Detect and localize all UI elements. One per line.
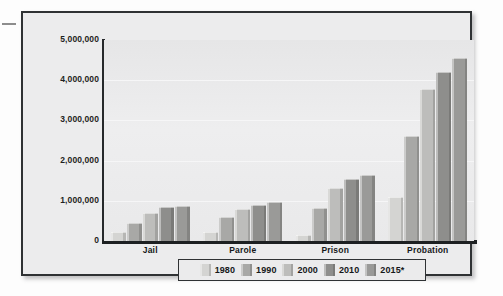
bar: [360, 175, 375, 241]
bar: [175, 206, 190, 241]
bar: [328, 188, 343, 241]
category-label: Probation: [382, 245, 475, 255]
y-axis-tick-label: 1,000,000: [60, 195, 99, 205]
bar-groups: [104, 40, 474, 241]
legend-label: 1980: [215, 265, 235, 275]
legend-item[interactable]: 1990: [241, 264, 276, 276]
bar-group: [104, 40, 197, 241]
bar: [143, 213, 158, 241]
bar: [296, 235, 311, 241]
bar: [436, 72, 451, 241]
bar: [235, 209, 250, 241]
bar: [312, 208, 327, 241]
y-axis-tick-label: 2,000,000: [60, 155, 99, 165]
legend-swatch: [324, 264, 335, 276]
legend-label: 1990: [256, 265, 276, 275]
bar-group: [382, 40, 475, 241]
bar: [159, 207, 174, 241]
bar: [111, 232, 126, 241]
category-labels: JailParolePrisonProbation: [104, 245, 474, 255]
legend-label: 2010: [339, 265, 359, 275]
y-axis-tick-label: 0: [94, 235, 99, 245]
y-axis-tick-label: 4,000,000: [60, 74, 99, 84]
bar: [203, 232, 218, 241]
chart-figure: 5,000,0004,000,0003,000,0002,000,0001,00…: [0, 0, 503, 296]
category-label: Prison: [289, 245, 382, 255]
bar-group: [289, 40, 382, 241]
legend-swatch: [282, 264, 293, 276]
legend-item[interactable]: 1980: [200, 264, 235, 276]
legend-label: 2015*: [380, 265, 404, 275]
legend-label: 2000: [297, 265, 317, 275]
chart-legend: 19801990200020102015*: [178, 259, 426, 281]
bar: [388, 197, 403, 241]
bar: [267, 202, 282, 241]
y-axis-tick-label: 5,000,000: [60, 34, 99, 44]
bar: [251, 205, 266, 241]
bar: [219, 217, 234, 241]
bar: [344, 179, 359, 241]
category-label: Parole: [197, 245, 290, 255]
bar: [404, 136, 419, 241]
y-axis-labels: 5,000,0004,000,0003,000,0002,000,0001,00…: [23, 13, 99, 253]
legend-item[interactable]: 2015*: [365, 264, 404, 276]
legend-item[interactable]: 2010: [324, 264, 359, 276]
plot-area: [104, 40, 474, 241]
legend-item[interactable]: 2000: [282, 264, 317, 276]
bar: [420, 89, 435, 241]
bar: [452, 58, 467, 241]
margin-dash-artifact: [2, 23, 16, 25]
bar: [127, 223, 142, 241]
y-axis-tick-label: 3,000,000: [60, 114, 99, 124]
legend-swatch: [200, 264, 211, 276]
legend-swatch: [365, 264, 376, 276]
bar-group: [197, 40, 290, 241]
category-label: Jail: [104, 245, 197, 255]
legend-swatch: [241, 264, 252, 276]
figure-frame: 5,000,0004,000,0003,000,0002,000,0001,00…: [21, 11, 472, 276]
